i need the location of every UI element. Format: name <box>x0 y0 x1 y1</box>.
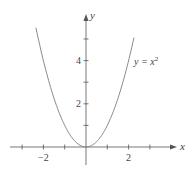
y-axis-arrow-icon <box>84 14 89 21</box>
function-label-base: y = x <box>133 56 155 67</box>
axes <box>10 14 177 165</box>
function-label-exponent: 2 <box>155 55 159 63</box>
x-axis-arrow-icon <box>170 145 177 150</box>
parabola-chart: x y y = x2 −2224 <box>0 0 192 174</box>
x-axis-label: x <box>179 140 185 152</box>
x-tick-label: −2 <box>38 152 49 163</box>
y-tick-label: 4 <box>76 55 81 66</box>
y-axis-label: y <box>89 9 95 21</box>
y-tick-label: 2 <box>76 98 81 109</box>
parabola-curve <box>36 28 134 147</box>
x-tick-label: 2 <box>126 152 131 163</box>
function-label: y = x2 <box>133 55 159 67</box>
